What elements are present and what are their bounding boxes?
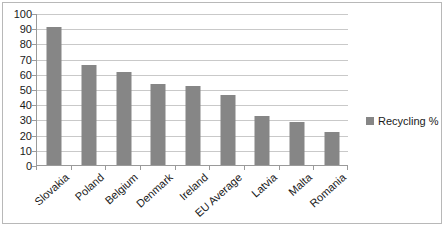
bar-slot: [314, 14, 349, 165]
x-axis-tick: [36, 166, 37, 170]
bar-slot: [72, 14, 107, 165]
y-axis-tick-label: 90: [20, 24, 32, 35]
y-axis-tick-label: 30: [20, 115, 32, 126]
x-axis-tick-label: Latvia: [249, 171, 279, 200]
y-axis-tick-label: 50: [20, 85, 32, 96]
x-axis-tick-label: Malta: [286, 171, 314, 198]
bar-slot: [176, 14, 211, 165]
recycling-bar-chart: 0102030405060708090100 SlovakiaPolandBel…: [0, 0, 445, 227]
bar-slot: [210, 14, 245, 165]
bar-slot: [37, 14, 72, 165]
y-axis-tick-label: 100: [14, 9, 32, 20]
plot-area: [36, 14, 348, 166]
x-axis-tick-label: Slovakia: [32, 171, 71, 208]
bar-slot: [141, 14, 176, 165]
y-axis-tick-label: 20: [20, 131, 32, 142]
y-axis-tick-label: 10: [20, 146, 32, 157]
bar-slot: [106, 14, 141, 165]
y-axis-tick-label: 40: [20, 100, 32, 111]
legend-swatch-icon: [366, 117, 374, 125]
bars-layer: [37, 14, 348, 165]
bar[interactable]: [47, 27, 62, 165]
chart-legend: Recycling %: [366, 115, 439, 127]
y-axis-tick-label: 70: [20, 55, 32, 66]
y-axis-tick-label: 60: [20, 70, 32, 81]
y-axis-tick-label: 80: [20, 39, 32, 50]
x-axis-labels: SlovakiaPolandBelgiumDenmarkIrelandEU Av…: [36, 171, 348, 227]
chart-frame: 0102030405060708090100 SlovakiaPolandBel…: [2, 2, 442, 224]
y-axis-labels: 0102030405060708090100: [3, 14, 32, 166]
x-axis-tick-label: Poland: [73, 171, 106, 203]
legend-entry-label: Recycling %: [378, 115, 439, 127]
